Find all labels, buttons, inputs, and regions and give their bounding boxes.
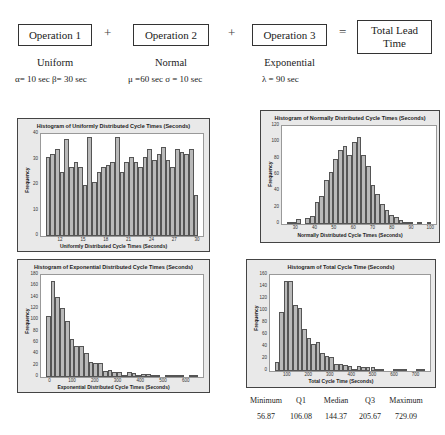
x-tick-label: 30: [285, 225, 305, 230]
histogram-bar: [155, 375, 160, 377]
operation-2-box: Operation 2: [133, 24, 209, 46]
histogram-bar: [193, 375, 198, 377]
operation-1-params: α= 10 sec β= 30 sec: [15, 74, 110, 84]
y-tick-label: 40: [253, 343, 267, 348]
y-tick-label: 140: [253, 283, 267, 288]
uniform-histogram-panel: Histogram of Uniformly Distributed Cycle…: [17, 118, 210, 252]
x-tick-label: 18: [96, 237, 116, 242]
chart-title: Histogram of Exponential Distributed Cyc…: [18, 264, 209, 270]
total-lead-time-label: Total Lead Time: [368, 24, 421, 50]
y-tick-label: 100: [265, 138, 279, 143]
x-tick-label: 600: [176, 378, 196, 383]
normal-histogram-panel: Histogram of Normally Distributed Cycle …: [260, 110, 440, 243]
x-tick-label: 100: [420, 225, 440, 230]
y-tick-label: 60: [265, 171, 279, 176]
histogram-bar: [408, 222, 413, 224]
plus-sign: +: [228, 25, 235, 41]
total-histogram-panel: Histogram of Total Cycle Time (Seconds) …: [246, 259, 436, 388]
x-tick-label: 400: [130, 378, 150, 383]
x-tick-label: 24: [141, 237, 161, 242]
y-tick-label: 40: [24, 130, 38, 135]
y-axis-label: Frequency: [24, 167, 30, 192]
operation-2-distribution: Normal: [133, 57, 209, 68]
y-tick-label: 20: [24, 181, 38, 186]
histogram-bar: [194, 195, 199, 236]
x-axis-label: Uniformly Distributed Cycle Times (Secon…: [18, 243, 209, 249]
chart-title: Histogram of Total Cycle Time (Seconds): [247, 264, 435, 270]
y-tick-label: 80: [253, 319, 267, 324]
y-tick-label: 120: [24, 305, 38, 310]
plus-sign: +: [104, 25, 111, 41]
operation-1-distribution: Uniform: [18, 57, 92, 68]
y-tick-label: 160: [24, 282, 38, 287]
y-tick-label: 20: [265, 204, 279, 209]
operation-2-label: Operation 2: [145, 29, 197, 42]
stat-header-q1: Q1: [286, 396, 316, 405]
y-tick-label: 30: [24, 156, 38, 161]
x-tick-label: 300: [320, 372, 340, 377]
operation-2-params: μ =60 sec σ = 10 sec: [128, 74, 223, 84]
y-tick-label: 0: [24, 373, 38, 378]
y-tick-label: 40: [24, 350, 38, 355]
y-tick-label: 140: [24, 294, 38, 299]
stat-value-q1: 106.08: [284, 412, 318, 421]
x-tick-label: 0: [39, 378, 59, 383]
histogram-bar: [421, 369, 426, 371]
exponential-histogram-panel: Histogram of Exponential Distributed Cyc…: [17, 259, 210, 393]
x-tick-label: 100: [277, 372, 297, 377]
chart-title: Histogram of Normally Distributed Cycle …: [261, 115, 439, 121]
total-lead-time-box: Total Lead Time: [357, 20, 432, 54]
x-tick-label: 21: [119, 237, 139, 242]
stat-header-q3: Q3: [355, 396, 385, 405]
stat-value-minimum: 56.87: [246, 412, 286, 421]
operation-3-params: λ = 90 sec: [262, 74, 322, 84]
histogram-bar: [179, 375, 184, 377]
x-tick-label: 12: [50, 237, 70, 242]
y-tick-label: 120: [253, 295, 267, 300]
y-tick-label: 100: [253, 307, 267, 312]
stat-header-minimum: Minimum: [246, 396, 286, 405]
x-tick-label: 300: [108, 378, 128, 383]
plot-area: [40, 274, 204, 378]
x-tick-label: 15: [73, 237, 93, 242]
y-tick-label: 100: [24, 316, 38, 321]
x-tick-label: 50: [324, 225, 344, 230]
y-tick-label: 0: [253, 367, 267, 372]
plot-area: [40, 133, 204, 237]
x-tick-label: 700: [406, 372, 426, 377]
x-axis-label: Exponential Distributed Cycle Times (Sec…: [18, 384, 209, 390]
stat-header-median: Median: [316, 396, 356, 405]
y-tick-label: 180: [24, 271, 38, 276]
equals-sign: =: [339, 24, 346, 40]
stat-header-maximum: Maximum: [384, 396, 428, 405]
histogram-bar: [296, 219, 301, 224]
x-tick-label: 60: [343, 225, 363, 230]
stat-value-maximum: 729.09: [384, 412, 428, 421]
x-tick-label: 30: [187, 237, 207, 242]
stat-value-q3: 205.67: [353, 412, 387, 421]
x-axis-label: Total Cycle Time (Seconds): [247, 378, 435, 384]
y-tick-label: 20: [253, 355, 267, 360]
plot-area: [281, 125, 437, 225]
x-axis-label: Normally Distributed Cycle Times (Second…: [261, 232, 439, 238]
y-tick-label: 10: [24, 207, 38, 212]
x-tick-label: 27: [164, 237, 184, 242]
x-tick-label: 200: [298, 372, 318, 377]
histogram-bar: [402, 369, 407, 371]
x-tick-label: 500: [363, 372, 383, 377]
y-tick-label: 160: [253, 271, 267, 276]
y-tick-label: 40: [265, 187, 279, 192]
histogram-bar: [417, 222, 422, 224]
x-tick-label: 90: [401, 225, 421, 230]
operation-3-distribution: Exponential: [252, 57, 327, 68]
y-tick-label: 60: [24, 339, 38, 344]
x-tick-label: 200: [85, 378, 105, 383]
x-tick-label: 80: [382, 225, 402, 230]
operation-1-label: Operation 1: [29, 29, 81, 42]
x-tick-label: 600: [384, 372, 404, 377]
y-tick-label: 80: [265, 155, 279, 160]
chart-title: Histogram of Uniformly Distributed Cycle…: [18, 123, 209, 129]
operation-3-label: Operation 3: [263, 29, 315, 42]
x-tick-label: 500: [153, 378, 173, 383]
plot-area: [269, 274, 431, 372]
